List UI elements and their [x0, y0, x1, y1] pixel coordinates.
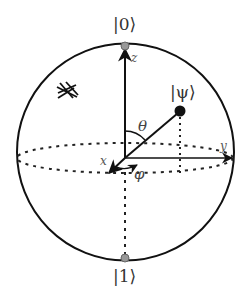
zero-state-label: |0⟩: [113, 14, 136, 34]
one-state-dot: [121, 254, 129, 262]
theta-label: θ: [138, 117, 147, 135]
one-state-label: |1⟩: [113, 266, 136, 286]
x-axis: [109, 158, 125, 173]
psi-state-label: |ψ⟩: [170, 82, 196, 102]
y-axis-label: y: [219, 139, 227, 153]
psi-vector: [125, 113, 178, 158]
hash-mark-icon: [57, 82, 78, 98]
bloch-sphere-diagram: |0⟩ |1⟩ |ψ⟩ z y x θ φ: [0, 0, 249, 301]
psi-state-dot: [175, 106, 186, 117]
zero-state-dot: [121, 42, 129, 50]
z-axis-label: z: [130, 51, 138, 65]
phi-label: φ: [134, 165, 145, 183]
x-axis-label: x: [100, 154, 107, 168]
